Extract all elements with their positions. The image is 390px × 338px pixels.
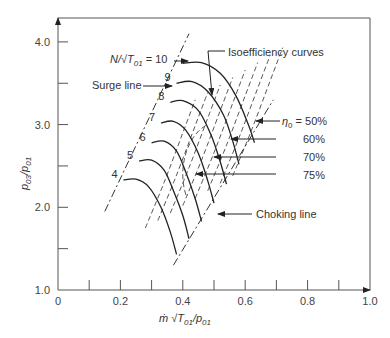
x-tick-label: 0.2 xyxy=(113,295,128,307)
choking-line xyxy=(173,100,273,265)
speed-label-8: 8 xyxy=(158,90,164,102)
x-tick-label: 0.4 xyxy=(175,295,190,307)
speed-lines xyxy=(124,62,255,254)
speed-label-6: 6 xyxy=(140,131,146,143)
isoefficiency-label: Isoefficiency curves xyxy=(228,46,324,58)
x-axis-title: ṁ √T01/p01 xyxy=(159,312,211,327)
speed-line-7 xyxy=(161,121,214,203)
x-tick-label: 0 xyxy=(55,295,61,307)
eta-75-label: 75% xyxy=(303,169,325,181)
surge-line-label: Surge line xyxy=(92,79,142,91)
eta-70-label: 70% xyxy=(303,151,325,163)
isoefficiency-curve xyxy=(170,85,220,213)
x-tick-label: 1.0 xyxy=(362,295,377,307)
speed-label-5: 5 xyxy=(127,149,133,161)
speed-parameter-label: N/√T01 = 10 xyxy=(110,53,167,68)
choking-line-label: Choking line xyxy=(256,208,317,220)
isoefficiency-curve xyxy=(220,55,270,183)
y-tick-label: 2.0 xyxy=(35,201,50,213)
y-tick-label: 4.0 xyxy=(35,36,50,48)
isoefficiency-curve xyxy=(183,77,233,205)
y-tick-label: 3.0 xyxy=(35,119,50,131)
x-tick-label: 0.6 xyxy=(238,295,253,307)
isoefficiency-curve xyxy=(195,70,245,198)
y-tick-label: 1.0 xyxy=(35,284,50,296)
isoefficiency-curve xyxy=(208,63,258,191)
compressor-map-chart: 00.20.40.60.81.01.02.03.04.0 ṁ √T01/p01 … xyxy=(0,0,390,338)
isoefficiency-island xyxy=(183,125,208,195)
speed-label-4: 4 xyxy=(112,168,118,180)
speed-label-7: 7 xyxy=(149,111,155,123)
speed-line-5 xyxy=(139,160,189,239)
speed-label-9: 9 xyxy=(165,71,171,83)
eta-50-label: η0 = 50% xyxy=(282,115,327,130)
eta-60-label: 60% xyxy=(303,133,325,145)
speed-line-6 xyxy=(152,141,202,222)
y-axis-title: p03/p01 xyxy=(18,157,33,191)
x-tick-label: 0.8 xyxy=(300,295,315,307)
